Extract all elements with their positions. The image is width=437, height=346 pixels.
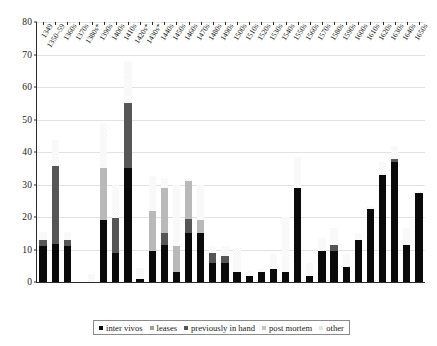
bar-stack[interactable]: [209, 246, 216, 282]
bar-segment-inter-vivos: [64, 246, 71, 282]
bar-segment-inter-vivos: [52, 244, 59, 282]
bar-segment-inter-vivos: [136, 279, 143, 282]
bar-segment-other: [52, 140, 59, 166]
bar-stack[interactable]: [136, 268, 143, 282]
bar-stack[interactable]: [52, 140, 59, 282]
bar-stack[interactable]: [246, 271, 253, 282]
bar-segment-inter-vivos: [367, 209, 374, 282]
bar-segment-inter-vivos: [306, 276, 313, 283]
bar-segment-inter-vivos: [330, 251, 337, 282]
bar-segment-inter-vivos: [124, 168, 131, 282]
plot-area: 01020304050607080 13491350–591360s1370s1…: [36, 22, 425, 283]
bar-segment-previously-in-hand: [52, 166, 59, 244]
bar-segment-previously-in-hand: [112, 218, 119, 254]
bar-segment-other: [379, 162, 386, 175]
bar-segment-other: [318, 238, 325, 251]
bar-segment-inter-vivos: [343, 267, 350, 282]
bar-stack[interactable]: [258, 269, 265, 282]
bar-stack[interactable]: [403, 228, 410, 282]
bar-segment-other: [403, 228, 410, 244]
bar-segment-other: [282, 217, 289, 272]
bar-segment-other: [136, 268, 143, 279]
bar-segment-other: [161, 178, 168, 188]
bar-segment-other: [64, 232, 71, 240]
bar-segment-inter-vivos: [221, 263, 228, 283]
legend-item[interactable]: post mortem: [262, 323, 312, 333]
bar-segment-other: [124, 61, 131, 103]
bar-stack[interactable]: [64, 232, 71, 282]
legend-item[interactable]: inter vivos: [99, 323, 143, 333]
bar-segment-inter-vivos: [403, 245, 410, 282]
bar-stack[interactable]: [185, 178, 192, 282]
bar-stack[interactable]: [88, 274, 95, 282]
bar-stack[interactable]: [197, 185, 204, 283]
legend-label: inter vivos: [106, 323, 143, 333]
bar-stack[interactable]: [100, 123, 107, 282]
bar-segment-other: [391, 146, 398, 159]
bar-stack[interactable]: [161, 178, 168, 282]
bar-stack[interactable]: [39, 232, 46, 282]
bar-segment-other: [197, 185, 204, 221]
legend-label: previously in hand: [191, 323, 255, 333]
bar-segment-inter-vivos: [318, 251, 325, 282]
bar-segment-other: [343, 254, 350, 267]
legend-item[interactable]: previously in hand: [184, 323, 255, 333]
bar-segment-inter-vivos: [294, 188, 301, 282]
legend-swatch-icon: [184, 326, 188, 330]
bar-segment-previously-in-hand: [161, 233, 168, 244]
bar-segment-inter-vivos: [282, 272, 289, 282]
bar-segment-inter-vivos: [270, 269, 277, 282]
bar-segment-other: [270, 254, 277, 269]
bar-segment-inter-vivos: [185, 233, 192, 282]
bar-stack[interactable]: [270, 254, 277, 282]
legend-label: post mortem: [269, 323, 312, 333]
legend-item[interactable]: leases: [150, 323, 178, 333]
bar-segment-other: [100, 123, 107, 169]
bar-segment-inter-vivos: [39, 246, 46, 282]
legend-item[interactable]: other: [319, 323, 344, 333]
legend-swatch-icon: [150, 326, 154, 330]
bar-stack[interactable]: [343, 254, 350, 282]
bar-stack[interactable]: [233, 248, 240, 282]
bar-stack[interactable]: [415, 191, 422, 282]
bar-segment-previously-in-hand: [185, 219, 192, 234]
bar-stack[interactable]: [173, 185, 180, 283]
bar-segment-inter-vivos: [415, 193, 422, 282]
chart-root: 01020304050607080 13491350–591360s1370s1…: [0, 0, 437, 346]
bar-segment-other: [221, 246, 228, 256]
bar-segment-inter-vivos: [391, 162, 398, 282]
bar-segment-inter-vivos: [246, 276, 253, 283]
bar-segment-previously-in-hand: [124, 103, 131, 168]
bar-segment-other: [330, 228, 337, 244]
bar-stack[interactable]: [221, 246, 228, 282]
bar-stack[interactable]: [282, 217, 289, 282]
bar-stack[interactable]: [318, 238, 325, 282]
bar-segment-other: [112, 184, 119, 218]
bar-stack[interactable]: [391, 146, 398, 283]
bar-stack[interactable]: [367, 206, 374, 282]
bar-segment-post-mortem: [161, 188, 168, 234]
bar-segment-inter-vivos: [112, 253, 119, 282]
bar-segment-inter-vivos: [197, 233, 204, 282]
bar-segment-other: [306, 263, 313, 276]
bar-stack[interactable]: [355, 233, 362, 282]
bar-stack[interactable]: [294, 157, 301, 282]
legend-swatch-icon: [262, 326, 266, 330]
bar-stack[interactable]: [379, 162, 386, 282]
bar-stack[interactable]: [149, 176, 156, 282]
bar-stack[interactable]: [306, 263, 313, 283]
bar-series-group: [37, 22, 425, 282]
bar-segment-other: [173, 185, 180, 247]
bar-stack[interactable]: [124, 61, 131, 282]
bar-stack[interactable]: [330, 228, 337, 282]
bar-segment-post-mortem: [173, 246, 180, 272]
bar-segment-other: [88, 274, 95, 282]
bar-stack[interactable]: [112, 184, 119, 282]
legend-swatch-icon: [99, 326, 103, 330]
bar-segment-post-mortem: [185, 181, 192, 218]
bar-segment-inter-vivos: [379, 175, 386, 282]
bar-segment-other: [294, 157, 301, 188]
bar-segment-inter-vivos: [355, 240, 362, 282]
bar-segment-other: [233, 248, 240, 272]
bar-segment-inter-vivos: [173, 272, 180, 282]
